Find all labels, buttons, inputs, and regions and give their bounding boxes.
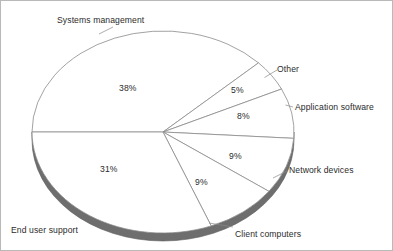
slice-label-client-computers: Client computers bbox=[235, 229, 301, 239]
slice-label-network-devices: Network devices bbox=[289, 165, 354, 175]
pie-slices bbox=[32, 31, 294, 233]
pie-chart-canvas bbox=[1, 1, 393, 251]
slice-value-systems-management: 38% bbox=[119, 83, 137, 93]
slice-value-end-user-support: 31% bbox=[100, 164, 118, 174]
slice-label-end-user-support: End user support bbox=[11, 225, 78, 235]
slice-label-application-software: Application software bbox=[295, 102, 374, 112]
slice-value-application-software: 8% bbox=[237, 111, 250, 121]
pie-chart-figure: Systems management Other Application sof… bbox=[0, 0, 393, 251]
slice-label-systems-management: Systems management bbox=[57, 15, 144, 25]
slice-value-client-computers: 9% bbox=[195, 177, 208, 187]
leader-line-systems-management bbox=[99, 27, 113, 34]
slice-label-other: Other bbox=[277, 64, 299, 74]
slice-value-other: 5% bbox=[231, 85, 244, 95]
slice-value-network-devices: 9% bbox=[229, 151, 242, 161]
